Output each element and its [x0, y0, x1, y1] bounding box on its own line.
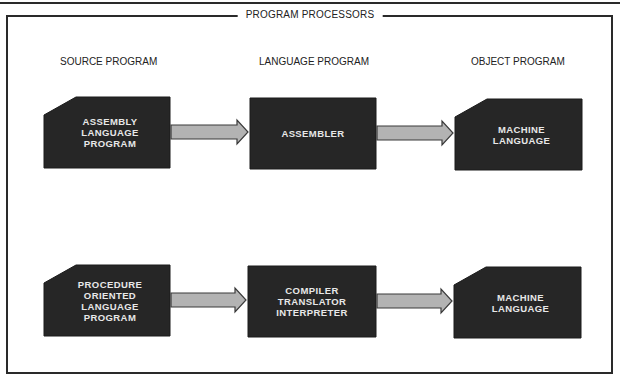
- language-processor-block-2: COMPILERTRANSLATORINTERPRETER: [248, 266, 376, 337]
- language-processor-block-2-label-line: TRANSLATOR: [278, 296, 347, 307]
- object-program-block-2-label-line: LANGUAGE: [492, 303, 550, 314]
- source-program-block-2: PROCEDUREORIENTEDLANGUAGEPROGRAM: [44, 265, 170, 336]
- arrow-source-to-processor-2: [171, 288, 246, 312]
- source-program-block-1-label-line: ASSEMBLY: [82, 116, 137, 127]
- language-processor-block-1: ASSEMBLER: [250, 98, 376, 169]
- object-program-block-2: MACHINELANGUAGE: [454, 267, 581, 338]
- arrow-processor-to-object-1: [377, 121, 453, 145]
- program-processors-diagram: PROGRAM PROCESSORS SOURCE PROGRAM LANGUA…: [0, 0, 620, 382]
- source-program-block-1-label-line: LANGUAGE: [81, 127, 139, 138]
- flow-graphics: ASSEMBLYLANGUAGEPROGRAMASSEMBLERMACHINEL…: [0, 0, 620, 382]
- source-program-block-1-label-line: PROGRAM: [84, 138, 136, 149]
- source-program-block-1: ASSEMBLYLANGUAGEPROGRAM: [44, 97, 170, 168]
- object-program-block-1-label-line: MACHINE: [498, 124, 545, 135]
- arrow-source-to-processor-1: [171, 120, 248, 144]
- source-program-block-2-label-line: PROCEDURE: [78, 279, 142, 290]
- source-program-block-2-label-line: LANGUAGE: [81, 301, 139, 312]
- language-processor-block-2-label-line: COMPILER: [285, 285, 338, 296]
- arrow-processor-to-object-2: [377, 289, 452, 313]
- language-processor-block-2-label-line: INTERPRETER: [276, 307, 347, 318]
- object-program-block-1: MACHINELANGUAGE: [455, 99, 582, 170]
- source-program-block-2-label-line: PROGRAM: [84, 312, 136, 323]
- object-program-block-1-label-line: LANGUAGE: [493, 135, 551, 146]
- language-processor-block-1-label-line: ASSEMBLER: [281, 128, 344, 139]
- source-program-block-2-label-line: ORIENTED: [84, 290, 136, 301]
- object-program-block-2-label-line: MACHINE: [497, 292, 544, 303]
